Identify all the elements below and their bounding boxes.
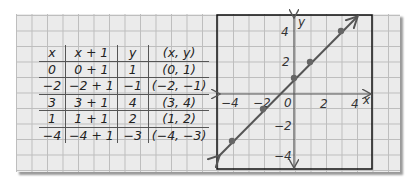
data-point xyxy=(338,28,344,34)
x-tick-label: −4 xyxy=(221,96,239,110)
coordinate-graph: −4 −2 0 2 4 x 4 2 −2 −4 y xyxy=(0,0,416,179)
y-tick-label: 4 xyxy=(281,25,289,39)
data-point xyxy=(307,59,313,65)
data-point xyxy=(229,138,235,144)
y-axis-label: y xyxy=(297,15,306,29)
y-tick-label: −4 xyxy=(274,149,292,163)
data-point xyxy=(291,75,297,81)
x-tick-label: 0 xyxy=(284,96,292,110)
x-axis-label: x xyxy=(362,93,371,107)
x-tick-label: 2 xyxy=(320,97,328,111)
y-tick-label: 2 xyxy=(282,55,290,69)
data-point xyxy=(260,106,266,112)
x-tick-label: 4 xyxy=(351,97,359,111)
y-tick-label: −2 xyxy=(274,119,292,133)
